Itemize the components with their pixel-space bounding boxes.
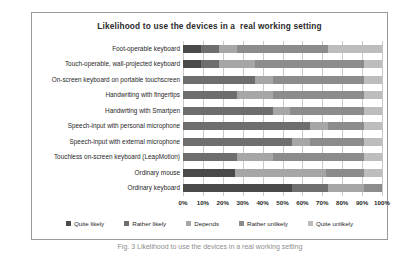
bar-segment [237, 91, 273, 99]
legend-label: Quite unlikely [316, 220, 353, 227]
bar-segment [183, 76, 255, 84]
bar-segment [183, 169, 235, 177]
bar-segment [219, 45, 237, 53]
category-label: Ordinary mouse [40, 169, 180, 177]
legend-swatch-icon [239, 221, 244, 226]
bar-row [183, 60, 382, 68]
bar-row [183, 45, 382, 53]
bar-segment [201, 60, 219, 68]
bar-segment [273, 153, 365, 161]
bar-segment [364, 184, 382, 192]
category-label: Handwrting with Smartpen [40, 107, 180, 115]
bar-segment [255, 76, 273, 84]
category-label: Speech-input with external microphone [40, 138, 180, 146]
gridline [382, 41, 383, 196]
x-tick-label: 30% [236, 199, 248, 206]
bar-segment [290, 107, 364, 115]
bar-segment [328, 122, 364, 130]
x-tick-label: 80% [336, 199, 348, 206]
bar-row [183, 184, 382, 192]
x-tick-label: 20% [217, 199, 229, 206]
bar-row [183, 138, 382, 146]
legend-item[interactable]: Rather likely [124, 220, 166, 227]
legend-swatch-icon [66, 221, 71, 226]
bar-segment [183, 138, 292, 146]
bar-segment [219, 60, 255, 68]
bar-segment [183, 45, 201, 53]
bar-segment [273, 91, 365, 99]
chart-container: Likelihood to use the devices in a real … [31, 12, 388, 240]
bar-segment [364, 91, 382, 99]
bar-segment [183, 122, 310, 130]
bar-segment [237, 45, 329, 53]
figure-caption: Fig. 3 Likelihood to use the devices in … [0, 243, 420, 250]
bar-row [183, 153, 382, 161]
legend-item[interactable]: Depends [186, 220, 219, 227]
x-tick-label: 60% [296, 199, 308, 206]
category-label: Speech-input with personal microphone [40, 122, 180, 130]
bar-segment [255, 60, 364, 68]
x-tick-label: 10% [197, 199, 209, 206]
bar-segment [183, 91, 237, 99]
legend-label: Rather likely [132, 220, 166, 227]
category-label: On-screen keyboard on portable touchscre… [40, 76, 180, 84]
legend-item[interactable]: Quite likely [66, 220, 104, 227]
x-tick-label: 40% [256, 199, 268, 206]
x-tick-label: 100% [374, 199, 390, 206]
x-tick-label: 70% [316, 199, 328, 206]
bar-segment [183, 60, 201, 68]
legend-swatch-icon [124, 221, 129, 226]
bar-segment [364, 138, 382, 146]
chart-legend: Quite likelyRather likelyDependsRather u… [32, 215, 387, 231]
legend-label: Depends [194, 220, 219, 227]
bar-segment [237, 153, 273, 161]
bar-segment [364, 169, 382, 177]
bar-segment [183, 107, 273, 115]
bar-row [183, 169, 382, 177]
legend-item[interactable]: Quite unlikely [308, 220, 353, 227]
bar-segment [292, 184, 328, 192]
bar-segment [183, 153, 237, 161]
x-tick-label: 90% [356, 199, 368, 206]
legend-label: Quite likely [74, 220, 104, 227]
bar-segment [364, 122, 382, 130]
category-label: Touch-operable, wall-projected keyboard [40, 60, 180, 68]
legend-swatch-icon [308, 221, 313, 226]
bar-segment [273, 107, 291, 115]
chart-title: Likelihood to use the devices in a real … [32, 21, 387, 31]
bar-segment [364, 153, 382, 161]
bar-segment [364, 107, 382, 115]
bar-row [183, 122, 382, 130]
x-tick-label: 0% [179, 199, 188, 206]
bar-row [183, 91, 382, 99]
bar-segment [292, 138, 310, 146]
legend-item[interactable]: Rather unlikely [239, 220, 288, 227]
bar-segment [310, 138, 364, 146]
bar-row [183, 76, 382, 84]
bar-segment [183, 184, 292, 192]
bar-segment [201, 45, 219, 53]
category-label: Foot-operable keyboard [40, 45, 180, 53]
bar-segment [364, 60, 382, 68]
bar-segment [326, 169, 364, 177]
legend-swatch-icon [186, 221, 191, 226]
bar-segment [328, 45, 382, 53]
category-label: Touchless on-screen keyboard (LeapMotion… [40, 153, 180, 161]
plot-area [183, 41, 382, 196]
category-label: Handwriting with fingertips [40, 91, 180, 99]
bar-segment [235, 169, 327, 177]
legend-label: Rather unlikely [247, 220, 288, 227]
category-axis-labels: Foot-operable keyboardTouch-operable, wa… [36, 41, 180, 196]
bar-segment [273, 76, 365, 84]
bar-row [183, 107, 382, 115]
value-axis-tick-labels: 0%10%20%30%40%50%60%70%80%90%100% [183, 199, 382, 211]
bar-segment [310, 122, 328, 130]
category-label: Ordinary keyboard [40, 184, 180, 192]
bar-segment [364, 76, 382, 84]
bar-segment [328, 184, 364, 192]
x-tick-label: 50% [276, 199, 288, 206]
